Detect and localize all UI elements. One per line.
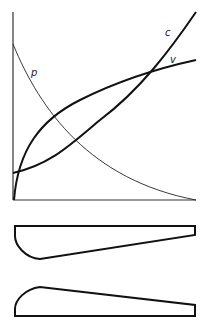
wedge-upper xyxy=(15,226,195,259)
curve-v xyxy=(14,60,196,200)
label-p: p xyxy=(30,67,37,78)
axes xyxy=(13,12,196,200)
label-v: v xyxy=(170,54,177,65)
label-c: c xyxy=(165,27,171,38)
diagram: p c v xyxy=(0,0,205,321)
wedge-lower xyxy=(15,287,195,316)
